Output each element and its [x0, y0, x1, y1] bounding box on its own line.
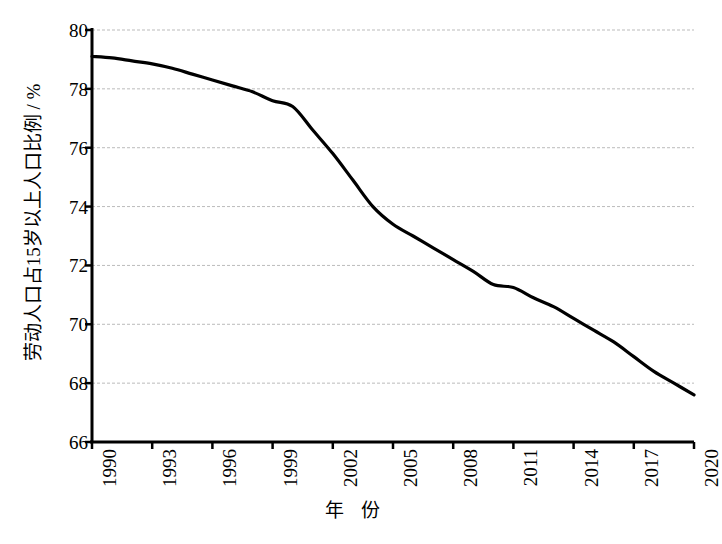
x-axis-title: 年 份 — [0, 495, 711, 522]
x-tick-label: 2017 — [642, 449, 661, 487]
x-tick-label: 1996 — [220, 449, 239, 487]
x-tick-label: 2011 — [521, 449, 540, 486]
x-tick-label: 2005 — [401, 449, 420, 487]
x-tick-label: 2014 — [582, 449, 601, 487]
x-axis-title-text: 年 份 — [325, 500, 386, 521]
x-tick-label: 2008 — [461, 449, 480, 487]
x-tick-label: 1999 — [281, 449, 300, 487]
x-tick-label: 1993 — [160, 449, 179, 487]
x-tick-label: 2020 — [702, 449, 721, 487]
x-tick-label: 2002 — [341, 449, 360, 487]
x-tick-label: 1990 — [100, 449, 119, 487]
